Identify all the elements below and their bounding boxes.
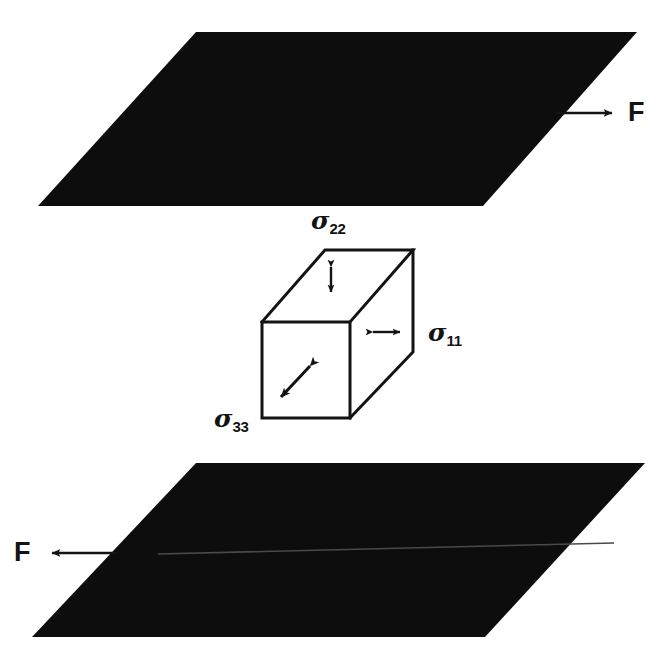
bottom-force-label: F (14, 539, 31, 566)
sigma-33-subscript: 33 (232, 418, 248, 435)
sigma-33-label: σ33 (214, 406, 249, 434)
sigma-22-subscript: 22 (329, 220, 345, 237)
top-force-label: F (628, 99, 645, 126)
sigma-22-label: σ22 (311, 208, 346, 236)
figure-vector-layer (0, 0, 670, 665)
sigma-11-glyph: σ (428, 318, 446, 347)
sigma-33-glyph: σ (214, 404, 232, 433)
figure-canvas: F F σ22 σ11 σ33 (0, 0, 670, 665)
sigma-11-subscript: 11 (446, 332, 461, 349)
sigma-22-glyph: σ (311, 206, 329, 235)
top-plate (38, 32, 637, 206)
sigma-11-label: σ11 (428, 320, 462, 348)
